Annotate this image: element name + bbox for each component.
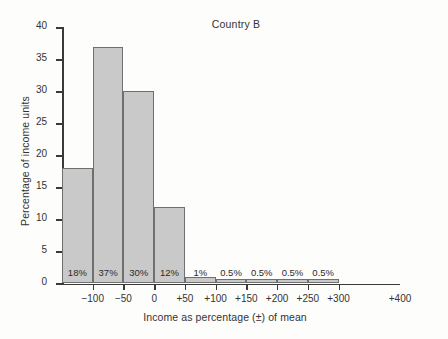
x-axis-tick	[308, 284, 309, 290]
bar-value-label: 12%	[160, 267, 179, 278]
y-axis-tick-label: 5	[41, 244, 47, 255]
bar	[123, 91, 154, 283]
chart-figure: Country B Percentage of income units 051…	[0, 0, 448, 339]
x-axis-tick	[339, 284, 340, 290]
bar-value-label: 0.5%	[251, 267, 273, 278]
x-axis-tick	[154, 284, 155, 290]
bar	[246, 279, 277, 283]
y-axis-tick: 25	[56, 123, 62, 124]
bar-value-label: 0.5%	[282, 267, 304, 278]
y-axis-tick-label: 10	[36, 212, 47, 223]
y-axis-tick: 0	[56, 283, 62, 284]
x-axis-tick-label: 0	[151, 293, 157, 304]
bar-value-label: 0.5%	[312, 267, 334, 278]
y-axis-tick-label: 15	[36, 180, 47, 191]
bar	[216, 279, 247, 283]
y-axis-tick-label: 0	[41, 276, 47, 287]
x-axis-tick	[246, 284, 247, 290]
y-axis-title: Percentage of income units	[19, 56, 31, 266]
bar-value-label: 30%	[129, 267, 148, 278]
x-axis-tick-label: +50	[176, 293, 193, 304]
y-axis-tick: 40	[56, 27, 62, 28]
y-axis-tick-label: 40	[36, 20, 47, 31]
y-axis-tick-label: 35	[36, 52, 47, 63]
y-axis-tick-label: 30	[36, 84, 47, 95]
x-axis-tick-label: +200	[266, 293, 289, 304]
x-axis-title: Income as percentage (±) of mean	[60, 311, 390, 323]
x-axis-tick-label: +100	[204, 293, 227, 304]
x-axis-tick-label: +400	[389, 293, 412, 304]
bar	[93, 47, 124, 284]
y-axis-tick: 35	[56, 59, 62, 60]
bar	[277, 279, 308, 283]
x-axis-tick	[123, 284, 124, 290]
x-axis-tick	[185, 284, 186, 290]
y-axis-tick: 30	[56, 91, 62, 92]
bar-value-label: 37%	[99, 267, 118, 278]
bar-value-label: 1%	[193, 267, 207, 278]
bar-value-label: 18%	[68, 267, 87, 278]
y-axis-tick-label: 25	[36, 116, 47, 127]
x-axis-tick-label: +150	[235, 293, 258, 304]
y-axis-tick-label: 20	[36, 148, 47, 159]
plot-area: 0510152025303540 −100−500+50+100+150+200…	[62, 27, 427, 285]
x-axis-tick	[277, 284, 278, 290]
bar-value-label: 0.5%	[220, 267, 242, 278]
bar	[308, 279, 339, 283]
x-axis-tick-label: +250	[297, 293, 320, 304]
y-axis-tick: 20	[56, 155, 62, 156]
x-axis-tick-label: +300	[327, 293, 350, 304]
x-axis-tick	[216, 284, 217, 290]
x-axis-tick-label: −50	[115, 293, 132, 304]
x-axis-tick	[93, 284, 94, 290]
x-axis-tick-label: −100	[81, 293, 104, 304]
x-axis-line	[62, 284, 400, 286]
